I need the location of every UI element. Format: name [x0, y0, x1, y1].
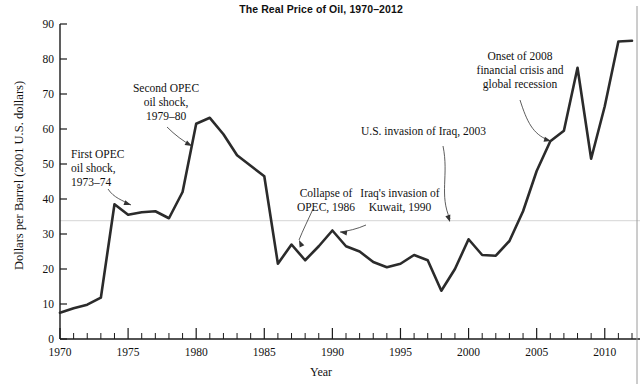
annotation-text: oil shock,	[144, 96, 189, 109]
y-tick-label: 10	[43, 298, 55, 310]
annotation-text: Second OPEC	[133, 82, 199, 94]
x-axis-ticks: 197019751980198519901995200020052010	[49, 328, 633, 358]
annotation-text: Iraq's invasion of	[360, 187, 440, 200]
annotation-leader-line	[520, 100, 548, 140]
annotation-text: 1979–80	[146, 110, 187, 122]
x-tick-label: 1985	[253, 346, 276, 358]
annotation-leader-line	[299, 209, 313, 240]
y-tick-label: 30	[43, 228, 55, 240]
x-tick-label: 1980	[185, 346, 208, 358]
annotation-arrowhead	[445, 215, 452, 223]
annotation-leader-line	[443, 146, 450, 219]
y-tick-label: 60	[43, 123, 55, 135]
x-tick-label: 1990	[321, 346, 344, 358]
annotation-first-opec: First OPECoil shock,1973–74	[71, 148, 132, 207]
annotation-arrowhead	[124, 200, 132, 207]
y-tick-label: 0	[48, 333, 54, 345]
figure-container: The Real Price of Oil, 1970–2012 Dollars…	[0, 0, 642, 390]
x-tick-label: 1970	[49, 346, 72, 358]
annotation-text: Onset of 2008	[487, 50, 552, 62]
annotation-text: 1973–74	[71, 176, 112, 188]
oil-price-line-chart: 0102030405060708090 19701975198019851990…	[0, 0, 642, 390]
annotation-financial-crisis: Onset of 2008financial crisis andglobal …	[477, 50, 564, 144]
annotation-text: financial crisis and	[477, 64, 564, 76]
annotation-text: OPEC, 1986	[297, 201, 355, 214]
annotation-text: U.S. invasion of Iraq, 2003	[361, 125, 486, 138]
annotation-layer: First OPECoil shock,1973–74Second OPECoi…	[71, 50, 564, 247]
y-tick-label: 40	[43, 193, 55, 205]
x-tick-label: 2005	[525, 346, 548, 358]
y-tick-label: 70	[43, 88, 55, 100]
y-tick-label: 90	[43, 18, 55, 30]
x-tick-label: 1975	[117, 346, 140, 358]
annotation-second-opec: Second OPECoil shock,1979–80	[133, 82, 199, 148]
annotation-text: Kuwait, 1990	[369, 201, 432, 214]
annotation-text: oil shock,	[71, 162, 116, 175]
annotation-text: global recession	[483, 78, 558, 91]
x-tick-label: 2010	[593, 346, 616, 358]
annotation-text: Collapse of	[300, 187, 353, 200]
annotation-leader-line	[340, 225, 366, 232]
y-axis-ticks: 0102030405060708090	[43, 18, 68, 345]
y-tick-label: 80	[43, 53, 55, 65]
y-tick-label: 50	[43, 158, 55, 170]
annotation-arrowhead	[340, 229, 348, 235]
annotation-arrowhead	[297, 239, 305, 248]
x-tick-label: 1995	[389, 346, 412, 358]
annotation-text: First OPEC	[71, 148, 125, 160]
y-tick-label: 20	[43, 263, 55, 275]
x-tick-label: 2000	[457, 346, 480, 358]
